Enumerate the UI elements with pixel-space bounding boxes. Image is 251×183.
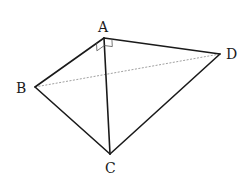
right-angle-mark-CAD bbox=[104, 39, 112, 47]
edge-BD bbox=[35, 54, 220, 87]
edge-AC bbox=[104, 38, 110, 154]
tetrahedron-diagram: A B C D bbox=[0, 0, 251, 183]
vertex-label-A: A bbox=[97, 19, 109, 35]
vertex-label-C: C bbox=[105, 160, 116, 176]
vertex-label-D: D bbox=[226, 46, 237, 62]
edge-BC bbox=[35, 87, 110, 154]
right-angle-mark-BAC bbox=[97, 43, 105, 51]
edge-CD bbox=[110, 54, 220, 154]
edge-AB bbox=[35, 38, 104, 87]
vertex-label-B: B bbox=[16, 80, 26, 96]
edge-AD bbox=[104, 38, 220, 54]
